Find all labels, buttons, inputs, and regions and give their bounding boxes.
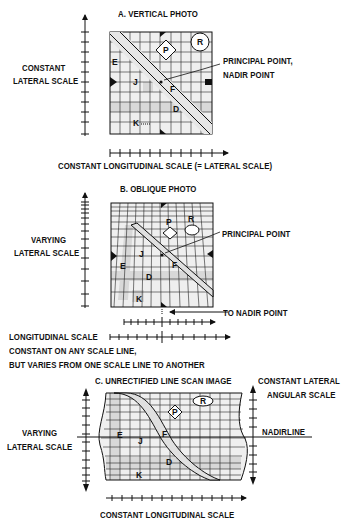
panel-c-right-scale bbox=[249, 385, 257, 485]
scan-point-r: R bbox=[200, 396, 206, 406]
panel-c-longitudinal-scale bbox=[106, 495, 246, 501]
oblique-point-d: D bbox=[146, 272, 152, 282]
oblique-point-r: R bbox=[188, 214, 194, 224]
panel-b-nadir-label: TO NADIR POINT bbox=[223, 307, 288, 318]
panel-c-right-label-2: ANGULAR SCALE bbox=[267, 389, 336, 400]
panel-a-lateral-scale bbox=[81, 15, 89, 136]
point-k: K bbox=[133, 118, 140, 128]
panel-c-right-label-1: CONSTANT LATERAL bbox=[258, 375, 340, 386]
point-f: F bbox=[170, 84, 175, 94]
oblique-point-k: K bbox=[136, 294, 143, 304]
panel-b-callout: PRINCIPAL POINT bbox=[222, 228, 290, 239]
panel-b-left-label-2: LATERAL SCALE bbox=[14, 247, 79, 258]
scan-point-d: D bbox=[166, 457, 172, 467]
panel-b-note-2: BUT VARIES FROM ONE SCALE LINE TO ANOTHE… bbox=[9, 359, 205, 370]
panel-b-title: B. OBLIQUE PHOTO bbox=[120, 183, 196, 194]
panel-b-left-label-1: VARYING bbox=[31, 234, 66, 245]
nadirline-label: NADIRLINE bbox=[262, 426, 305, 437]
point-e: E bbox=[112, 57, 118, 67]
oblique-point-e: E bbox=[120, 261, 126, 271]
panel-c-title: C. UNRECTIFIED LINE SCAN IMAGE bbox=[95, 375, 232, 386]
panel-a-longitudinal-scale bbox=[110, 149, 228, 157]
point-d: D bbox=[173, 104, 179, 114]
panel-b-scale-line-2 bbox=[110, 331, 230, 343]
scan-point-p: P bbox=[172, 407, 178, 417]
scan-point-e: E bbox=[117, 430, 123, 440]
point-j: J bbox=[133, 77, 138, 87]
oblique-point-j: J bbox=[139, 249, 144, 259]
panel-c-left-label-2: LATERAL SCALE bbox=[7, 441, 72, 452]
panel-b-long-scale-label: LONGITUDINAL SCALE bbox=[9, 331, 98, 342]
panel-b-scale-line-1 bbox=[124, 317, 215, 327]
panel-c-left-label-1: VARYING bbox=[22, 427, 57, 438]
panel-a-vertical-photo: P R E J F D K bbox=[110, 32, 220, 134]
scan-point-k: K bbox=[136, 470, 143, 480]
oblique-point-f: F bbox=[172, 260, 177, 270]
panel-b-lateral-scale bbox=[81, 193, 89, 308]
panel-c-bottom-label: CONSTANT LONGITUDINAL SCALE bbox=[100, 509, 234, 520]
point-p: P bbox=[163, 45, 169, 55]
oblique-point-p: P bbox=[166, 217, 172, 227]
panel-b-note-1: CONSTANT ON ANY SCALE LINE, bbox=[9, 345, 137, 356]
point-r: R bbox=[197, 37, 203, 47]
panel-b-oblique-photo: P R E J F D K bbox=[111, 203, 228, 314]
panel-c-left-scale bbox=[82, 388, 90, 492]
